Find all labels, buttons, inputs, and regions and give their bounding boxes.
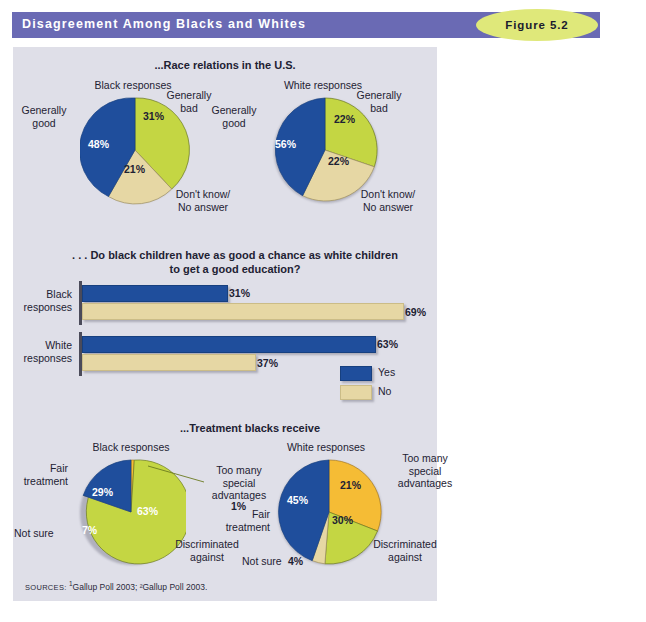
pie1-value-generally-bad: 31% bbox=[143, 110, 164, 122]
pie4-label-too-many: Too manyspecialadvantages bbox=[382, 452, 468, 490]
page-title: Disagreement Among Blacks and Whites bbox=[22, 17, 306, 31]
bar-row-label-white: Whiteresponses bbox=[6, 339, 72, 364]
figure-badge: Figure 5.2 bbox=[476, 9, 598, 41]
pie4-label-not-sure: Not sure bbox=[242, 555, 282, 568]
figure-badge-label: Figure 5.2 bbox=[476, 9, 598, 41]
sources-prefix: SOURCES: bbox=[25, 583, 67, 592]
pie2-label-dont-know: Don't know/No answer bbox=[345, 188, 431, 213]
pie2-value-generally-bad: 22% bbox=[334, 113, 355, 125]
pie3-label-fair-treatment: Fairtreatment bbox=[6, 462, 68, 487]
pie1-label-dont-know: Don't know/No answer bbox=[160, 188, 246, 213]
bar-value-white-yes: 63% bbox=[377, 338, 398, 350]
pie3-value-fair-treatment: 29% bbox=[92, 486, 113, 498]
pie4-caption: White responses bbox=[266, 441, 386, 454]
pie4-value-not-sure: 4% bbox=[288, 555, 303, 567]
pie3-value-discriminated: 63% bbox=[137, 505, 158, 517]
bar-value-black-no: 69% bbox=[405, 306, 426, 318]
section-title-education-line1: . . . Do black children have as good a c… bbox=[45, 248, 425, 262]
section-title-race-relations: ...Race relations in the U.S. bbox=[120, 58, 330, 72]
bar-white-no bbox=[82, 354, 256, 371]
bar-black-yes bbox=[82, 285, 228, 302]
pie4-label-fair-treatment: Fairtreatment bbox=[206, 508, 270, 533]
pie3-label-not-sure: Not sure bbox=[14, 527, 54, 540]
bar-value-black-yes: 31% bbox=[229, 287, 250, 299]
legend-label-yes: Yes bbox=[378, 366, 395, 378]
bar-black-no bbox=[82, 303, 404, 320]
bar-value-white-no: 37% bbox=[257, 357, 278, 369]
pie2-value-dont-know: 22% bbox=[328, 155, 349, 167]
pie4-label-discriminated: Discriminatedagainst bbox=[358, 538, 452, 563]
pie3-label-discriminated: Discriminatedagainst bbox=[160, 538, 254, 563]
pie3-value-not-sure: 7% bbox=[82, 524, 97, 536]
pie1-value-dont-know: 21% bbox=[124, 163, 145, 175]
legend-label-no: No bbox=[378, 385, 391, 397]
legend-swatch-yes bbox=[340, 366, 372, 381]
pie4-value-fair-treatment: 45% bbox=[287, 494, 308, 506]
sources-note: SOURCES: 1Gallup Poll 2003; ²Gallup Poll… bbox=[25, 580, 207, 592]
pie1-label-generally-good: Generallygood bbox=[8, 104, 80, 129]
bar-white-yes bbox=[82, 336, 376, 353]
section-title-education-line2: to get a good education? bbox=[45, 262, 425, 276]
pie2-value-generally-good: 56% bbox=[275, 138, 296, 150]
legend-swatch-no bbox=[340, 385, 372, 400]
pie1-value-generally-good: 48% bbox=[88, 138, 109, 150]
pie3-label-too-many: Too manyspecialadvantages bbox=[196, 464, 282, 502]
pie4-value-discriminated: 30% bbox=[332, 514, 353, 526]
sources-text: Gallup Poll 2003; ²Gallup Poll 2003. bbox=[73, 582, 208, 592]
pie2-label-generally-bad: Generallybad bbox=[340, 89, 418, 114]
section-title-treatment: ...Treatment blacks receive bbox=[140, 421, 360, 435]
pie4-value-too-many: 21% bbox=[340, 479, 361, 491]
bar-row-label-black: Blackresponses bbox=[6, 288, 72, 313]
pie2-label-generally-good: Generallygood bbox=[198, 104, 270, 129]
pie3-caption: Black responses bbox=[71, 441, 191, 454]
